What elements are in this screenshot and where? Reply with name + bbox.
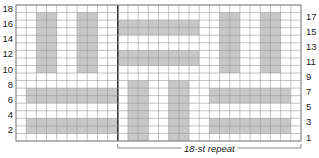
row-label-12: 12 [2, 48, 13, 59]
right-row-labels: 1357911131517 [306, 11, 317, 143]
row-label-10: 10 [2, 64, 13, 75]
row-label-16: 16 [2, 18, 13, 29]
row-label-4: 4 [8, 109, 13, 120]
row-label-3: 3 [306, 116, 311, 127]
row-label-13: 13 [306, 41, 317, 52]
repeat-bracket: 18-st repeat [118, 143, 301, 154]
row-label-17: 17 [306, 11, 317, 22]
row-label-18: 18 [2, 3, 13, 14]
row-label-8: 8 [8, 79, 13, 90]
row-label-9: 9 [306, 71, 311, 82]
row-label-15: 15 [306, 26, 317, 37]
row-label-14: 14 [2, 33, 13, 44]
row-label-2: 2 [8, 124, 13, 135]
knitting-chart: 24681012141618 1357911131517 18-st repea… [0, 0, 319, 158]
repeat-label: 18-st repeat [184, 143, 235, 154]
row-label-11: 11 [306, 56, 316, 67]
row-label-5: 5 [306, 101, 311, 112]
row-label-6: 6 [8, 94, 13, 105]
row-label-7: 7 [306, 86, 311, 97]
row-label-1: 1 [306, 132, 311, 143]
left-row-labels: 24681012141618 [2, 3, 13, 135]
